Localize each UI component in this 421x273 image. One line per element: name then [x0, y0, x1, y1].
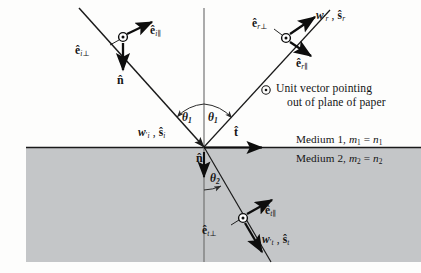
medium1-label: Medium 1, m1 = n1 — [296, 133, 383, 147]
incident-parallel-label: êi∥ — [150, 24, 161, 39]
incident-wave-label: w′i , ŝi — [138, 126, 166, 141]
legend-circle-dot-inner — [265, 89, 268, 92]
transmitted-wave-label: w′t , ŝt — [262, 233, 290, 248]
optics-interface-diagram: êi⊥ êi∥ n̂ w′i , ŝi θ1 θ1 t̂ n̂ θ2 êr⊥ w… — [0, 0, 421, 273]
tangent-label: t̂ — [234, 126, 238, 140]
theta2-label: θ2 — [210, 172, 220, 187]
legend-line1: Unit vector pointing — [276, 82, 372, 95]
incident-perp-dot-inner — [122, 36, 125, 39]
reflected-perp-dot-inner — [285, 37, 288, 40]
incident-perp-leader — [110, 40, 119, 45]
transmitted-parallel-label: êt∥ — [265, 204, 276, 219]
incident-perp-label: êi⊥ — [75, 44, 90, 59]
normal-lower-label: n̂ — [196, 152, 203, 166]
medium2-label: Medium 2, m2 = n2 — [296, 152, 383, 166]
incident-normal-label: n̂ — [117, 74, 124, 88]
reflected-wave-vector — [290, 17, 315, 34]
theta1-left-label: θ1 — [182, 111, 192, 126]
incident-parallel-vector — [127, 22, 152, 34]
reflected-perp-leader — [274, 29, 282, 35]
reflected-parallel-vector — [290, 42, 311, 56]
transmitted-perp-label: êt⊥ — [202, 224, 217, 239]
transmitted-perp-dot-inner — [242, 217, 245, 220]
reflected-parallel-label: êr∥ — [296, 57, 308, 72]
reflected-wave-label: w′r , ŝr — [316, 9, 345, 24]
theta1-right-label: θ1 — [208, 111, 218, 126]
legend-line2: out of plane of paper — [287, 96, 386, 109]
reflected-perp-label: êr⊥ — [252, 17, 268, 32]
